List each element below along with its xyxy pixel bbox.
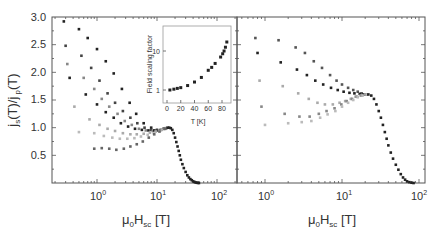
chart-figure: 0.5 1.0 1.5 2.0 2.5 3.0 100 101 102 μ0Hs… bbox=[0, 0, 436, 239]
data-point-r2 bbox=[330, 87, 333, 90]
data-point-s2 bbox=[98, 79, 101, 82]
data-point-s2 bbox=[64, 44, 67, 47]
data-point-s1 bbox=[150, 126, 153, 129]
data-point-s1 bbox=[96, 48, 99, 51]
data-point-s7 bbox=[147, 136, 150, 139]
data-point-r2 bbox=[296, 68, 299, 71]
data-point-r1 bbox=[329, 74, 332, 77]
data-point-s7 bbox=[115, 149, 118, 152]
inset-data-point bbox=[224, 46, 227, 49]
data-point-s1 bbox=[135, 113, 138, 116]
data-point-r3 bbox=[316, 101, 319, 104]
data-point-r1 bbox=[321, 67, 324, 70]
data-point-collapse bbox=[186, 174, 189, 177]
data-point-r1 bbox=[312, 60, 315, 63]
data-point-s1 bbox=[63, 20, 66, 23]
data-point-r3 bbox=[307, 98, 310, 101]
y-tick-label: 2.0 bbox=[31, 66, 46, 78]
inset-data-point bbox=[207, 69, 210, 72]
data-point-r2 bbox=[353, 92, 356, 95]
data-point-collapse bbox=[171, 129, 174, 132]
data-point-s7 bbox=[142, 140, 145, 143]
data-point-r2 bbox=[279, 61, 282, 64]
data-point-collapse bbox=[412, 182, 415, 185]
inset-data-point bbox=[186, 84, 189, 87]
data-point-s5 bbox=[88, 118, 91, 121]
data-point-s7 bbox=[135, 143, 138, 146]
data-point-s3 bbox=[130, 124, 133, 127]
data-point-r4 bbox=[308, 115, 311, 118]
data-point-collapse bbox=[399, 173, 402, 176]
data-point-s1 bbox=[78, 28, 81, 31]
data-point-s5 bbox=[114, 130, 117, 133]
data-point-collapse bbox=[402, 176, 405, 179]
inset-y-tick-label: 1 bbox=[156, 87, 160, 94]
data-point-s1 bbox=[121, 88, 124, 91]
data-point-r5 bbox=[341, 105, 344, 108]
data-point-s6 bbox=[146, 134, 149, 137]
data-point-s2 bbox=[90, 67, 93, 70]
data-point-collapse bbox=[176, 145, 179, 148]
data-point-s2 bbox=[129, 116, 132, 119]
data-point-r2 bbox=[336, 89, 339, 92]
data-point-s6 bbox=[78, 131, 81, 134]
data-point-collapse bbox=[395, 163, 398, 166]
data-point-s6 bbox=[140, 135, 143, 138]
data-point-r2 bbox=[322, 83, 325, 86]
data-point-r1 bbox=[356, 90, 359, 93]
data-point-collapse bbox=[387, 144, 390, 147]
data-point-collapse bbox=[172, 132, 175, 135]
inset-data-point bbox=[200, 76, 203, 79]
data-point-r1 bbox=[335, 79, 338, 82]
data-point-s7 bbox=[158, 130, 161, 133]
x-tick-label: 101 bbox=[336, 189, 352, 202]
right-x-axis-title: μ0Hsc [T] bbox=[308, 212, 356, 229]
data-point-s3 bbox=[93, 88, 96, 91]
data-point-r5 bbox=[319, 116, 322, 119]
data-point-s4 bbox=[120, 122, 123, 125]
data-point-collapse bbox=[380, 116, 383, 119]
data-point-s3 bbox=[82, 77, 85, 80]
data-point-s2 bbox=[114, 101, 117, 104]
data-point-s4 bbox=[134, 127, 137, 130]
data-point-s6 bbox=[103, 135, 106, 138]
x-tick-label: 101 bbox=[150, 189, 166, 202]
left-panel: 0.5 1.0 1.5 2.0 2.5 3.0 100 101 102 μ0Hs… bbox=[5, 11, 237, 229]
data-point-s3 bbox=[66, 63, 69, 66]
data-point-collapse bbox=[198, 182, 201, 185]
data-point-r4 bbox=[325, 110, 328, 113]
data-point-s6 bbox=[126, 137, 129, 140]
data-point-r2 bbox=[256, 52, 259, 55]
data-point-collapse bbox=[406, 180, 409, 183]
data-point-s6 bbox=[111, 136, 114, 139]
inset-x-tick-label: 80 bbox=[218, 105, 226, 112]
inset-x-tick-labels: 020406080 bbox=[165, 105, 226, 112]
data-point-r3 bbox=[258, 79, 261, 82]
data-point-r5 bbox=[347, 101, 350, 104]
data-point-collapse bbox=[180, 158, 183, 161]
data-point-r4 bbox=[333, 107, 336, 110]
left-y-tick-labels: 0.5 1.0 1.5 2.0 2.5 3.0 bbox=[31, 11, 46, 161]
data-point-s5 bbox=[129, 133, 132, 136]
data-point-collapse bbox=[377, 110, 380, 113]
data-point-s4 bbox=[112, 116, 115, 119]
right-panel: 100 101 102 μ0Hsc [T] bbox=[237, 17, 427, 229]
data-point-s3 bbox=[108, 105, 111, 108]
data-point-r4 bbox=[340, 103, 343, 106]
data-point-r3 bbox=[332, 103, 335, 106]
inset-data-point bbox=[210, 66, 213, 69]
data-point-s1 bbox=[86, 37, 89, 40]
data-point-s3 bbox=[138, 127, 141, 130]
data-point-s5 bbox=[73, 105, 76, 108]
data-point-s4 bbox=[127, 125, 130, 128]
data-point-s7 bbox=[93, 147, 96, 150]
data-point-s6 bbox=[93, 132, 96, 135]
data-point-collapse bbox=[177, 150, 180, 153]
data-point-r5 bbox=[334, 110, 337, 113]
data-point-s1 bbox=[104, 60, 107, 63]
left-x-axis-title: μ0Hsc [T] bbox=[122, 212, 170, 229]
data-point-r1 bbox=[352, 89, 355, 92]
inset-frame bbox=[163, 26, 231, 103]
data-point-collapse bbox=[382, 124, 385, 127]
data-point-r5 bbox=[300, 121, 303, 124]
